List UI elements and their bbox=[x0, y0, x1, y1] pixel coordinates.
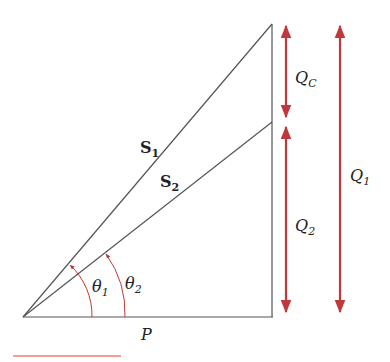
power-triangle-diagram: S1 S2 θ1 θ2 P QC Q2 Q1 bbox=[0, 0, 390, 362]
s1-label: S1 bbox=[140, 138, 159, 160]
s2-label: S2 bbox=[160, 172, 179, 194]
s1-line bbox=[23, 24, 272, 317]
theta1-arc bbox=[70, 265, 92, 317]
triangle bbox=[23, 24, 273, 317]
q1-label: Q1 bbox=[350, 166, 370, 188]
p-label: P bbox=[140, 325, 152, 344]
qc-label: QC bbox=[295, 68, 317, 90]
theta2-label: θ2 bbox=[125, 274, 142, 296]
theta2-arc bbox=[106, 254, 125, 317]
theta1-label: θ1 bbox=[92, 277, 109, 299]
q2-label: Q2 bbox=[295, 216, 315, 238]
